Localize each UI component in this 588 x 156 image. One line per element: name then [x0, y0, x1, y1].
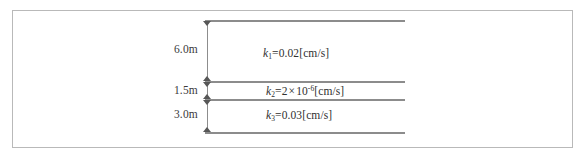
k-subscript-1: 1: [268, 52, 272, 61]
k-equals-2: =: [275, 85, 282, 97]
k-equals-3: =: [275, 109, 282, 121]
multiplication-sign-2: ×: [288, 85, 297, 97]
permeability-label-layer-2: k2=2×10-6[cm/s]: [266, 85, 344, 97]
k-exponent-2: -6: [308, 84, 314, 93]
arrowhead-up-mid-1: [203, 76, 211, 81]
k-symbol-3: k3: [266, 109, 275, 121]
k-base-2: 10: [296, 85, 308, 97]
arrowhead-up-mid-2: [203, 94, 211, 99]
soil-boundary-line-bottom: [205, 132, 405, 134]
dimension-line-layer-1: [207, 22, 208, 80]
k-equals-1: =: [272, 47, 279, 59]
soil-boundary-line-2: [205, 99, 405, 101]
k-unit-2: [cm/s]: [314, 85, 344, 97]
k-value-3: 0.03: [282, 109, 303, 121]
permeability-label-layer-3: k3=0.03[cm/s]: [266, 109, 332, 121]
soil-layer-diagram: 6.0m 1.5m 3.0m k1=0.02[cm/s] k2=2×10-6[c…: [0, 0, 588, 156]
thickness-label-layer-2: 1.5m: [158, 84, 198, 96]
permeability-label-layer-1: k1=0.02[cm/s]: [263, 47, 329, 59]
thickness-label-layer-3: 3.0m: [158, 108, 198, 120]
k-unit-3: [cm/s]: [302, 109, 332, 121]
k-mantissa-2: 2: [282, 85, 288, 97]
soil-boundary-line-top: [205, 20, 405, 22]
k-subscript-2: 2: [271, 90, 275, 99]
k-symbol-1: k1: [263, 47, 272, 59]
arrowhead-up-bottom: [203, 127, 211, 132]
k-symbol-2: k2: [266, 85, 275, 97]
arrowhead-down-mid-1: [203, 82, 211, 87]
soil-boundary-line-1: [205, 81, 405, 83]
arrowhead-down-top: [203, 21, 211, 26]
thickness-label-layer-1: 6.0m: [158, 43, 198, 55]
arrowhead-down-mid-2: [203, 100, 211, 105]
k-unit-1: [cm/s]: [299, 47, 329, 59]
k-subscript-3: 3: [271, 114, 275, 123]
k-value-1: 0.02: [279, 47, 300, 59]
